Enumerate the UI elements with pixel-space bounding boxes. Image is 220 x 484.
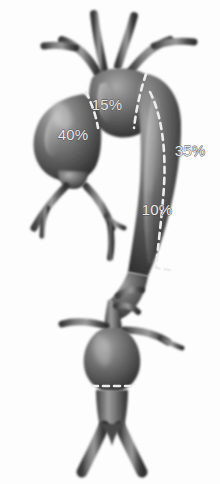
label-ascending-percent: 15% xyxy=(92,96,123,113)
aortic-aneurysm-diagram: 15% 40% 35% 10% xyxy=(0,0,220,484)
label-thoracoabdominal-percent: 10% xyxy=(142,201,173,218)
left-renal-artery xyxy=(62,322,106,326)
figure-caption xyxy=(0,470,220,484)
abdominal-aneurysm-body xyxy=(84,328,141,392)
aorta-illustration: 15% 40% 35% 10% xyxy=(0,0,220,484)
right-outflow-branch-lower xyxy=(110,224,112,258)
label-root-percent: 40% xyxy=(58,126,89,143)
label-descending-percent: 35% xyxy=(175,142,206,159)
abdominal-aortic-aneurysm xyxy=(84,328,141,392)
brachiocephalic-branch-left-outer xyxy=(44,45,76,48)
